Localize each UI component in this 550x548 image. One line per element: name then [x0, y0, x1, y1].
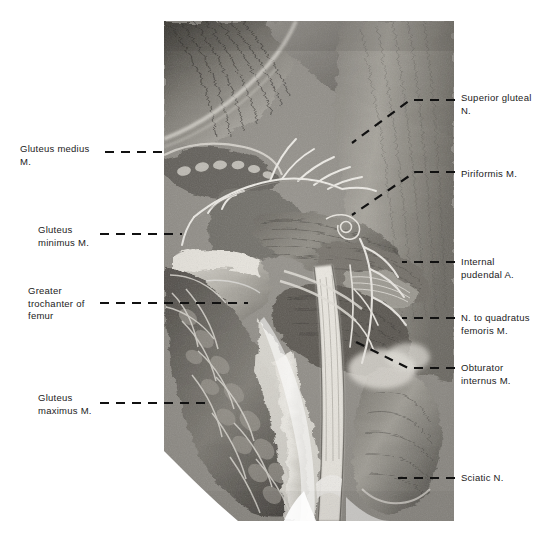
label-gluteus-maximus: Gluteus maximus M. [38, 392, 112, 417]
anatomical-photograph [164, 21, 454, 521]
label-superior-gluteal-nerve: Superior gluteal N. [461, 92, 547, 117]
dissection-photo-svg [164, 21, 454, 521]
label-internal-pudendal-artery: Internal pudendal A. [461, 256, 547, 281]
label-nerve-to-quadratus-femoris: N. to quadratus femoris M. [461, 312, 549, 337]
label-piriformis: Piriformis M. [461, 168, 547, 181]
label-sciatic-nerve: Sciatic N. [461, 472, 547, 485]
label-greater-trochanter-of-femur: Greater trochanter of femur [28, 285, 106, 323]
figure-root: Gluteus medius M. Gluteus minimus M. Gre… [0, 0, 550, 548]
label-obturator-internus: Obturator internus M. [461, 362, 547, 387]
label-gluteus-medius: Gluteus medius M. [20, 143, 116, 168]
label-gluteus-minimus: Gluteus minimus M. [38, 224, 110, 249]
